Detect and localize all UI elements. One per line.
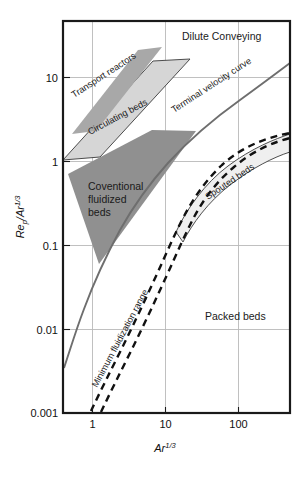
label-dilute-conveying: Dilute Conveying [182,30,262,42]
fluidization-regime-chart: 1 10 100 10 1 0.1 0.01 0.001 Ar1/3 Rep/A… [0,0,306,478]
x-axis-title-exponent: 1/3 [165,441,176,450]
chart-svg: 1 10 100 10 1 0.1 0.01 0.001 Ar1/3 Rep/A… [0,0,306,478]
y-axis-title: Rep/Ar1/3 [13,195,29,239]
y-tick-labels: 10 1 0.1 0.01 0.001 [30,72,58,420]
x-tick-label-10: 10 [159,418,171,430]
y-tick-label-0.01: 0.01 [37,324,58,336]
svg-text:Ar1/3: Ar1/3 [153,441,176,454]
label-conventional-line2: fluidized [88,193,127,205]
svg-text:Rep/Ar1/3: Rep/Ar1/3 [13,195,29,239]
y-tick-label-0.001: 0.001 [30,407,58,419]
label-packed-beds: Packed beds [205,310,266,322]
y-tick-label-1: 1 [52,156,58,168]
y-axis-title-exponent: 1/3 [13,195,22,206]
label-conventional-line3: beds [88,206,111,218]
x-tick-label-100: 100 [229,418,247,430]
x-tick-labels: 1 10 100 [89,418,247,430]
y-tick-label-10: 10 [46,72,58,84]
x-axis-title: Ar1/3 [153,441,176,454]
y-tick-label-0.1: 0.1 [43,240,58,252]
y-axis-title-numerator: Re [14,224,26,238]
label-conventional-line1: Coventional [88,180,143,192]
x-tick-label-1: 1 [89,418,95,430]
